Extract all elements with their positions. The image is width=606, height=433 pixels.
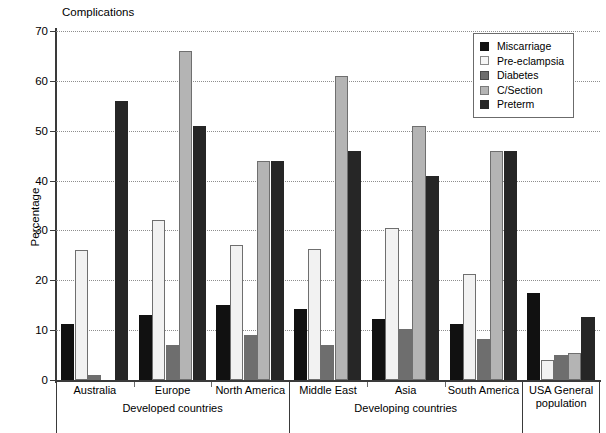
bar-pre-eclampsia-asia xyxy=(385,228,398,380)
bar-c-section-usa-general-population xyxy=(568,353,581,380)
bar-diabetes-north-america xyxy=(244,335,257,380)
bar-diabetes-south-america xyxy=(477,339,490,380)
bar-pre-eclampsia-north-america xyxy=(230,245,243,380)
legend-item-label: Pre-eclampsia xyxy=(497,56,564,67)
bar-miscarriage-south-america xyxy=(450,324,463,380)
category-label-middle-east: Middle East xyxy=(299,384,356,396)
axis-box-left-edge xyxy=(56,382,57,433)
bar-pre-eclampsia-usa-general-population xyxy=(541,360,554,380)
legend-item-miscarriage[interactable]: Miscarriage xyxy=(480,39,564,54)
y-axis-tick-label: 60 xyxy=(22,75,48,87)
chart-title: Complications xyxy=(62,6,134,18)
bar-preterm-australia xyxy=(115,101,128,380)
bar-pre-eclampsia-australia xyxy=(75,250,88,380)
legend-item-c-section[interactable]: C/Section xyxy=(480,83,564,98)
complications-bar-chart: Complications Percentage 010203040506070… xyxy=(0,0,606,433)
category-tick xyxy=(134,382,135,387)
bar-c-section-south-america xyxy=(490,151,503,380)
category-tick xyxy=(211,382,212,387)
category-label-australia: Australia xyxy=(73,384,116,396)
y-axis-tick-label: 0 xyxy=(22,374,48,386)
bar-preterm-south-america xyxy=(504,151,517,380)
group-label-developing-countries: Developing countries xyxy=(354,402,457,415)
bar-pre-eclampsia-europe xyxy=(152,220,165,380)
bar-miscarriage-australia xyxy=(61,324,74,380)
bar-c-section-asia xyxy=(412,126,425,380)
y-axis-tick xyxy=(50,380,56,381)
group-separator xyxy=(289,382,290,433)
bar-preterm-asia xyxy=(426,176,439,380)
legend-swatch-icon xyxy=(480,86,489,95)
bar-miscarriage-europe xyxy=(139,315,152,380)
group-label-usa-general-population: USA Generalpopulation xyxy=(521,384,601,409)
legend-swatch-icon xyxy=(480,42,489,51)
bar-miscarriage-north-america xyxy=(216,305,229,380)
category-tick xyxy=(445,382,446,387)
category-label-europe: Europe xyxy=(155,384,190,396)
bar-diabetes-australia xyxy=(88,375,101,380)
legend-item-label: Preterm xyxy=(497,99,534,110)
legend-swatch-icon xyxy=(480,56,489,65)
legend-item-pre-eclampsia[interactable]: Pre-eclampsia xyxy=(480,54,564,69)
legend: MiscarriagePre-eclampsiaDiabetesC/Sectio… xyxy=(473,33,574,118)
bar-miscarriage-middle-east xyxy=(294,309,307,380)
y-axis-tick-label: 20 xyxy=(22,274,48,286)
category-label-south-america: South America xyxy=(448,384,520,396)
bar-c-section-north-america xyxy=(257,161,270,380)
bar-diabetes-middle-east xyxy=(321,345,334,380)
category-tick xyxy=(367,382,368,387)
legend-item-preterm[interactable]: Preterm xyxy=(480,97,564,112)
y-axis-tick-label: 30 xyxy=(22,224,48,236)
bar-diabetes-asia xyxy=(399,329,412,380)
bar-diabetes-usa-general-population xyxy=(554,355,567,380)
legend-item-label: C/Section xyxy=(497,85,543,96)
category-label-north-america: North America xyxy=(215,384,285,396)
bar-diabetes-europe xyxy=(166,345,179,380)
y-axis-title: Percentage xyxy=(29,187,41,246)
y-axis-tick-label: 10 xyxy=(22,324,48,336)
bar-c-section-middle-east xyxy=(335,76,348,380)
bar-miscarriage-usa-general-population xyxy=(527,293,540,380)
y-axis-tick-label: 50 xyxy=(22,125,48,137)
y-axis-tick-label: 40 xyxy=(22,175,48,187)
legend-swatch-icon xyxy=(480,71,489,80)
bar-c-section-europe xyxy=(179,51,192,380)
y-axis-tick-label: 70 xyxy=(22,25,48,37)
legend-item-label: Diabetes xyxy=(497,70,538,81)
bar-preterm-middle-east xyxy=(348,151,361,380)
bar-preterm-north-america xyxy=(271,161,284,380)
legend-item-label: Miscarriage xyxy=(497,41,551,52)
bar-pre-eclampsia-south-america xyxy=(463,274,476,380)
legend-item-diabetes[interactable]: Diabetes xyxy=(480,68,564,83)
category-label-asia: Asia xyxy=(395,384,416,396)
bar-pre-eclampsia-middle-east xyxy=(308,249,321,380)
group-label-developed-countries: Developed countries xyxy=(122,402,222,415)
bar-preterm-europe xyxy=(193,126,206,380)
category-axis: AustraliaEuropeNorth AmericaMiddle EastA… xyxy=(56,382,600,433)
bar-miscarriage-asia xyxy=(372,319,385,380)
bar-preterm-usa-general-population xyxy=(581,317,594,380)
legend-swatch-icon xyxy=(480,100,489,109)
